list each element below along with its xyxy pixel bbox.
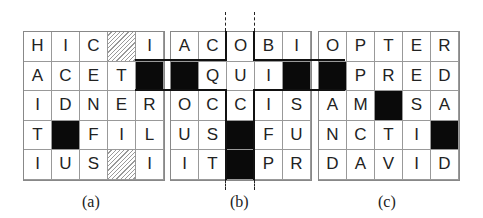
- black-cell: [52, 121, 80, 151]
- letter-cell: T: [108, 62, 136, 92]
- letter-cell: A: [24, 62, 52, 92]
- dashed-guide-left-bottom: [225, 180, 226, 190]
- letter-cell: S: [283, 91, 311, 121]
- letter-cell: I: [171, 150, 199, 180]
- letter-cell: F: [80, 121, 108, 151]
- letter-cell: E: [108, 91, 136, 121]
- letter-cell: I: [255, 62, 283, 92]
- black-cell: [227, 121, 255, 151]
- letter-cell: D: [431, 62, 459, 92]
- letter-cell: A: [319, 91, 347, 121]
- letter-cell: U: [171, 121, 199, 151]
- letter-cell: U: [283, 121, 311, 151]
- letter-cell: P: [347, 62, 375, 92]
- letter-cell: D: [319, 150, 347, 180]
- letter-cell: T: [375, 32, 403, 62]
- letter-cell: I: [403, 121, 431, 151]
- letter-cell: I: [24, 91, 52, 121]
- letter-cell: S: [403, 91, 431, 121]
- letter-cell: R: [283, 150, 311, 180]
- black-cell: [227, 150, 255, 180]
- letter-cell: I: [136, 32, 164, 62]
- cross-outline-col-right-bottom: [253, 89, 255, 180]
- letter-cell: D: [52, 91, 80, 121]
- letter-cell: C: [227, 91, 255, 121]
- letter-cell: O: [171, 91, 199, 121]
- letter-cell: E: [403, 62, 431, 92]
- hatched-cell: [108, 32, 136, 62]
- letter-cell: I: [403, 150, 431, 180]
- grid-a: HICIACETIDNERTFILIUSI: [23, 31, 165, 181]
- letter-cell: M: [347, 91, 375, 121]
- letter-cell: Q: [199, 62, 227, 92]
- letter-cell: N: [319, 121, 347, 151]
- letter-cell: I: [283, 32, 311, 62]
- letter-cell: A: [431, 91, 459, 121]
- letter-cell: P: [255, 150, 283, 180]
- cross-outline-col-left-bottom: [225, 89, 227, 180]
- black-cell: [136, 62, 164, 92]
- black-cell: [375, 91, 403, 121]
- letter-cell: I: [255, 91, 283, 121]
- caption-b: (b): [230, 193, 249, 211]
- letter-cell: D: [431, 150, 459, 180]
- black-cell: [431, 121, 459, 151]
- letter-cell: T: [375, 121, 403, 151]
- letter-cell: C: [347, 121, 375, 151]
- letter-cell: R: [431, 32, 459, 62]
- letter-cell: F: [255, 121, 283, 151]
- letter-cell: C: [80, 32, 108, 62]
- letter-cell: A: [171, 32, 199, 62]
- letter-cell: V: [375, 150, 403, 180]
- black-cell: [319, 62, 347, 92]
- hatched-cell: [108, 150, 136, 180]
- letter-cell: O: [319, 32, 347, 62]
- letter-cell: U: [52, 150, 80, 180]
- letter-cell: T: [199, 150, 227, 180]
- grid-c: OPTERPREDAMSANCTIDAVID: [318, 31, 460, 181]
- letter-cell: I: [136, 150, 164, 180]
- letter-cell: N: [80, 91, 108, 121]
- letter-cell: B: [255, 32, 283, 62]
- letter-cell: L: [136, 121, 164, 151]
- letter-cell: E: [403, 32, 431, 62]
- cross-outline-top-left: [135, 59, 226, 61]
- letter-cell: A: [347, 150, 375, 180]
- dashed-guide-left-top: [225, 12, 226, 31]
- letter-cell: H: [24, 32, 52, 62]
- letter-cell: S: [199, 121, 227, 151]
- letter-cell: S: [80, 150, 108, 180]
- letter-cell: I: [52, 32, 80, 62]
- letter-cell: C: [52, 62, 80, 92]
- caption-a: (a): [82, 193, 100, 211]
- dashed-guide-right-top: [254, 12, 255, 31]
- letter-cell: P: [347, 32, 375, 62]
- cross-outline-bottom-right: [254, 89, 345, 91]
- cross-outline-top-right: [254, 59, 345, 61]
- letter-cell: E: [80, 62, 108, 92]
- letter-cell: U: [227, 62, 255, 92]
- letter-cell: I: [24, 150, 52, 180]
- cross-outline-col-right-top: [253, 31, 255, 61]
- black-cell: [171, 62, 199, 92]
- cross-outline-bottom-left: [135, 89, 226, 91]
- grid-b: ACOBIQUIOCCISUSFUITPR: [170, 31, 312, 181]
- dashed-guide-right-bottom: [254, 180, 255, 190]
- caption-c: (c): [378, 193, 396, 211]
- letter-cell: C: [199, 91, 227, 121]
- letter-cell: I: [108, 121, 136, 151]
- letter-cell: T: [24, 121, 52, 151]
- letter-cell: R: [375, 62, 403, 92]
- letter-cell: C: [199, 32, 227, 62]
- cross-outline-col-left-top: [225, 31, 227, 61]
- letter-cell: O: [227, 32, 255, 62]
- black-cell: [283, 62, 311, 92]
- letter-cell: R: [136, 91, 164, 121]
